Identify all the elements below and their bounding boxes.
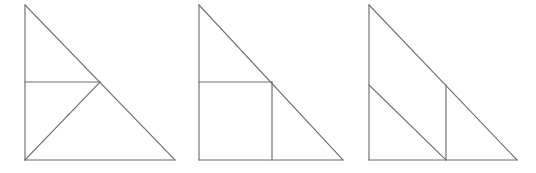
figure-1-right-triangle-with-horizontal-and-diagonal	[25, 5, 175, 160]
figure-2-right-triangle-with-inscribed-square	[199, 5, 343, 160]
geometry-diagram-svg	[0, 0, 536, 173]
geometry-figure-board	[0, 0, 536, 173]
figure-3-inner-diagonal	[369, 85, 446, 160]
figure-3-right-triangle-with-parallel-diagonal-and-vertical	[369, 5, 517, 160]
figure-3-hypotenuse	[369, 5, 517, 160]
figure-1-inner-diagonal	[25, 82, 100, 160]
